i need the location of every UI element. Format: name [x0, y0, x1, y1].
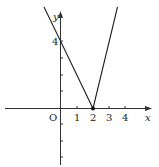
x-tick-label-2: 2 [90, 112, 96, 123]
axes [5, 14, 150, 165]
function-line [44, 7, 118, 109]
origin-label: O [49, 112, 57, 123]
y-axis-arrow-icon [58, 11, 63, 18]
y-axis-label: y [52, 11, 59, 22]
function-graph: y x O 1 2 3 4 4 [0, 0, 159, 167]
x-tick-label-3: 3 [106, 112, 112, 123]
vertex-point [91, 107, 95, 111]
x-tick-label-4: 4 [122, 112, 128, 123]
x-axis-label: x [145, 112, 151, 123]
x-tick-label-1: 1 [74, 112, 80, 123]
y-tick-label-4: 4 [52, 36, 58, 47]
x-axis-arrow-icon [145, 106, 152, 111]
